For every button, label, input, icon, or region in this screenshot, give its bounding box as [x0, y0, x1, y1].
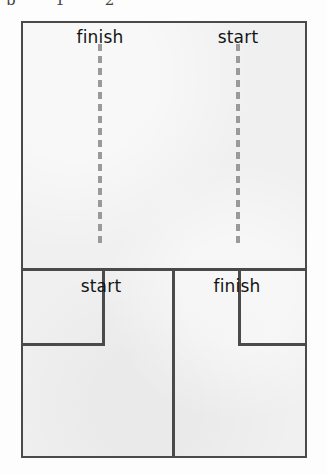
- dashed-path-start-line: [236, 44, 240, 247]
- right-wall-horizontal: [238, 343, 305, 346]
- scanned-page: p 1 2 finish start: [0, 0, 327, 474]
- clipped-header-text: p 1 2: [0, 0, 327, 5]
- lower-panel-start-label: start: [81, 278, 122, 295]
- left-wall-horizontal: [23, 343, 105, 346]
- lower-panel-finish-label: finish: [213, 278, 260, 295]
- maze-route-comparison-figure: finish start start finish: [21, 21, 307, 458]
- dashed-path-finish-line: [98, 44, 102, 247]
- upper-panel-start-label: start: [218, 29, 259, 46]
- center-divider-wall: [172, 268, 175, 456]
- upper-panel-finish-label: finish: [76, 29, 123, 46]
- horizontal-divider-wall: [23, 268, 305, 271]
- figure-inner-canvas: finish start start finish: [23, 23, 305, 456]
